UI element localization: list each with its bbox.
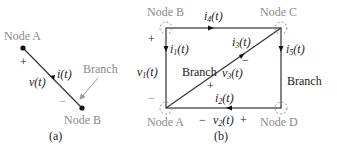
v1-minus: − bbox=[148, 91, 155, 105]
i4-arrow-icon bbox=[208, 26, 214, 31]
v1-label: v1(t) bbox=[137, 65, 158, 80]
node-a-label: Node A bbox=[4, 29, 41, 43]
v3-minus: − bbox=[242, 53, 249, 67]
branch-center-label: Branch bbox=[182, 65, 217, 79]
circuit-diagram: Node A + − v(t) i(t) Branch Node B (a) N… bbox=[0, 0, 337, 153]
figure-a: Node A + − v(t) i(t) Branch Node B (a) bbox=[4, 29, 118, 143]
i2-arrow-icon bbox=[226, 106, 232, 111]
v1-plus: + bbox=[148, 32, 155, 46]
node-c-label: Node C bbox=[260, 5, 297, 19]
node-b-label: Node B bbox=[64, 113, 101, 127]
current-label: i(t) bbox=[57, 67, 72, 81]
plus-sign: + bbox=[20, 55, 27, 69]
node-d-label: Node D bbox=[260, 115, 298, 129]
i1-label: i1(t) bbox=[170, 42, 189, 57]
node-b-dot bbox=[79, 105, 84, 110]
i2-label: i2(t) bbox=[215, 91, 234, 106]
caption-b: (b) bbox=[214, 129, 228, 143]
v2-minus: − bbox=[199, 113, 206, 127]
node-a-dot bbox=[20, 45, 25, 50]
i1-arrow-icon bbox=[164, 46, 169, 52]
voltage-label: v(t) bbox=[29, 75, 46, 89]
v2-label: v2(t) bbox=[213, 113, 234, 128]
v2-plus: + bbox=[240, 113, 247, 127]
i5-arrow-icon bbox=[279, 46, 284, 52]
v3-plus: + bbox=[207, 79, 214, 93]
branch-right-label: Branch bbox=[287, 74, 322, 88]
v3-label: v3(t) bbox=[222, 66, 243, 81]
caption-a: (a) bbox=[49, 129, 62, 143]
minus-sign: − bbox=[59, 94, 66, 108]
branch-label: Branch bbox=[83, 62, 118, 76]
figure-b: Node B Node C Node A Node D + − v1(t) i1… bbox=[137, 5, 322, 143]
node-b-label: Node B bbox=[147, 5, 184, 19]
node-a-label: Node A bbox=[147, 115, 184, 129]
i5-label: i5(t) bbox=[286, 42, 305, 57]
i3-label: i3(t) bbox=[232, 35, 251, 50]
branch-pointer-arrow-icon bbox=[80, 78, 98, 99]
i4-label: i4(t) bbox=[204, 9, 223, 24]
